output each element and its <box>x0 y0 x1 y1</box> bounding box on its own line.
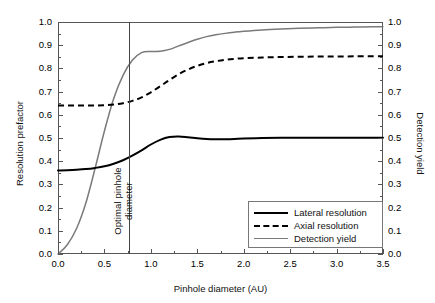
x-tick-label-0: 0.0 <box>38 259 78 269</box>
y-tick-right-8 <box>378 68 383 69</box>
y-tick-right-3 <box>378 184 383 185</box>
y-tick-label-right-2: 0.2 <box>388 203 422 213</box>
legend-item-lateral-resolution: Lateral resolution <box>254 206 378 219</box>
x-tick-0 <box>58 249 59 254</box>
x-tick-minor-5 <box>313 251 314 254</box>
legend-line-solid-gray-icon <box>254 234 288 244</box>
y-tick-label-left-0: 0.0 <box>18 249 52 259</box>
y-tick-right-minor-6 <box>380 103 383 104</box>
x-tick-label-7: 3.5 <box>363 259 403 269</box>
y-tick-label-right-4: 0.4 <box>388 156 422 166</box>
y-tick-left-minor-7 <box>58 80 61 81</box>
chart-figure: Optimal pinhole diameter Resolution pref… <box>0 0 435 303</box>
y-tick-left-minor-0 <box>58 242 61 243</box>
y-tick-left-minor-6 <box>58 103 61 104</box>
y-tick-right-minor-7 <box>380 80 383 81</box>
y-tick-right-minor-3 <box>380 173 383 174</box>
legend-line-solid-black-icon <box>254 208 288 218</box>
y-tick-label-right-9: 0.9 <box>388 40 422 50</box>
x-tick-label-6: 3.0 <box>317 259 357 269</box>
y-tick-left-minor-3 <box>58 173 61 174</box>
y-tick-left-1 <box>58 231 63 232</box>
y-tick-left-7 <box>58 92 63 93</box>
y-tick-label-right-10: 1.0 <box>388 17 422 27</box>
y-tick-right-0 <box>378 254 383 255</box>
y-tick-label-left-1: 0.1 <box>18 226 52 236</box>
x-tick-6 <box>337 249 338 254</box>
optimal-label-line2: diameter <box>123 182 134 220</box>
y-tick-left-8 <box>58 68 63 69</box>
x-tick-label-2: 1.0 <box>131 259 171 269</box>
legend: Lateral resolution Axial resolution Dete… <box>248 201 383 248</box>
x-tick-minor-0 <box>81 251 82 254</box>
y-tick-left-6 <box>58 115 63 116</box>
y-tick-left-9 <box>58 45 63 46</box>
y-tick-label-right-8: 0.8 <box>388 63 422 73</box>
y-tick-left-minor-4 <box>58 150 61 151</box>
x-tick-minor-1 <box>128 251 129 254</box>
y-tick-label-left-3: 0.3 <box>18 179 52 189</box>
x-tick-2 <box>151 249 152 254</box>
y-tick-label-right-5: 0.5 <box>388 133 422 143</box>
y-tick-left-4 <box>58 161 63 162</box>
x-tick-minor-2 <box>174 251 175 254</box>
x-tick-minor-6 <box>360 251 361 254</box>
legend-item-detection-yield: Detection yield <box>254 232 378 245</box>
y-tick-label-left-10: 1.0 <box>18 17 52 27</box>
y-tick-left-10 <box>58 22 63 23</box>
x-tick-7 <box>383 249 384 254</box>
legend-line-dashed-black-icon <box>254 221 288 231</box>
y-tick-label-right-1: 0.1 <box>388 226 422 236</box>
y-tick-left-5 <box>58 138 63 139</box>
legend-label-axial-resolution: Axial resolution <box>294 220 358 231</box>
x-tick-label-1: 0.5 <box>84 259 124 269</box>
y-tick-right-minor-5 <box>380 126 383 127</box>
y-tick-left-0 <box>58 254 63 255</box>
x-axis-label: Pinhole diameter (AU) <box>58 283 383 294</box>
x-tick-label-4: 2.0 <box>224 259 264 269</box>
y-tick-right-minor-8 <box>380 57 383 58</box>
x-tick-3 <box>197 249 198 254</box>
y-tick-label-right-7: 0.7 <box>388 87 422 97</box>
y-tick-label-left-9: 0.9 <box>18 40 52 50</box>
optimal-label-line1: Optimal pinhole <box>112 167 123 235</box>
y-tick-label-left-7: 0.7 <box>18 87 52 97</box>
y-tick-label-left-6: 0.6 <box>18 110 52 120</box>
y-tick-label-left-5: 0.5 <box>18 133 52 143</box>
x-tick-minor-4 <box>267 251 268 254</box>
x-tick-label-3: 1.5 <box>177 259 217 269</box>
series-lateral-resolution <box>58 137 383 171</box>
y-tick-label-right-3: 0.3 <box>388 179 422 189</box>
x-tick-1 <box>104 249 105 254</box>
y-tick-label-left-8: 0.8 <box>18 63 52 73</box>
y-tick-label-left-4: 0.4 <box>18 156 52 166</box>
y-tick-left-3 <box>58 184 63 185</box>
series-axial-resolution <box>58 56 383 105</box>
y-tick-label-right-0: 0.0 <box>388 249 422 259</box>
legend-item-axial-resolution: Axial resolution <box>254 219 378 232</box>
y-tick-right-minor-4 <box>380 150 383 151</box>
y-tick-left-minor-2 <box>58 196 61 197</box>
y-tick-left-2 <box>58 208 63 209</box>
legend-label-detection-yield: Detection yield <box>294 233 356 244</box>
y-tick-right-6 <box>378 115 383 116</box>
y-tick-left-minor-9 <box>58 34 61 35</box>
y-tick-label-right-6: 0.6 <box>388 110 422 120</box>
optimal-pinhole-diameter-label: Optimal pinhole diameter <box>112 146 134 256</box>
x-tick-label-5: 2.5 <box>270 259 310 269</box>
y-tick-left-minor-8 <box>58 57 61 58</box>
y-tick-left-minor-5 <box>58 126 61 127</box>
y-tick-right-minor-9 <box>380 34 383 35</box>
x-tick-4 <box>244 249 245 254</box>
y-tick-right-5 <box>378 138 383 139</box>
y-tick-right-minor-2 <box>380 196 383 197</box>
legend-label-lateral-resolution: Lateral resolution <box>294 207 367 218</box>
x-tick-minor-3 <box>221 251 222 254</box>
y-tick-right-10 <box>378 22 383 23</box>
y-tick-left-minor-1 <box>58 219 61 220</box>
x-tick-5 <box>290 249 291 254</box>
y-tick-label-left-2: 0.2 <box>18 203 52 213</box>
y-tick-right-4 <box>378 161 383 162</box>
y-tick-right-7 <box>378 92 383 93</box>
y-tick-right-9 <box>378 45 383 46</box>
